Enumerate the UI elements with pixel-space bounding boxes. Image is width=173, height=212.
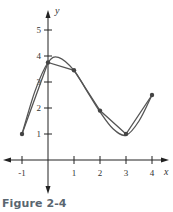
series-group bbox=[20, 57, 154, 136]
x-tick-label: 2 bbox=[98, 168, 103, 178]
figure-2-4: -11234 12345 x y Figure 2-4 bbox=[0, 0, 173, 212]
x-axis-right-arrow-icon bbox=[161, 158, 169, 163]
data-point-marker bbox=[124, 132, 128, 136]
x-ticks: -11234 bbox=[18, 156, 155, 178]
y-tick-label: 5 bbox=[37, 25, 42, 35]
data-point-marker bbox=[20, 132, 24, 136]
x-tick-label: 1 bbox=[72, 168, 77, 178]
figure-caption: Figure 2-4 bbox=[2, 197, 67, 210]
data-point-marker bbox=[150, 93, 154, 97]
y-tick-label: 4 bbox=[37, 51, 42, 61]
y-axis-label: y bbox=[54, 5, 60, 16]
x-axis-label: x bbox=[163, 166, 169, 177]
y-tick-label: 2 bbox=[37, 103, 42, 113]
data-point-marker bbox=[72, 68, 76, 72]
y-tick-label: 1 bbox=[37, 129, 42, 139]
y-axis-down-arrow-icon bbox=[46, 186, 51, 194]
x-tick-label: 4 bbox=[150, 168, 155, 178]
data-point-marker bbox=[98, 108, 102, 112]
x-tick-label: 3 bbox=[124, 168, 129, 178]
x-tick-label: -1 bbox=[18, 168, 26, 178]
plot-area: -11234 12345 x y bbox=[0, 0, 173, 212]
axes bbox=[3, 10, 169, 194]
data-point-marker bbox=[46, 60, 50, 64]
x-axis-left-arrow-icon bbox=[3, 158, 11, 163]
y-axis-up-arrow-icon bbox=[46, 10, 51, 18]
